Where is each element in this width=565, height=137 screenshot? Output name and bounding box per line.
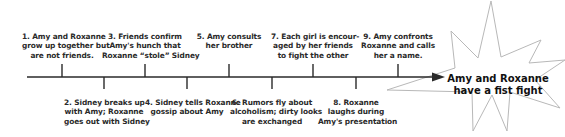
event-4-label: 4. Sidney tells Roxanne gossip about Amy [145, 98, 229, 117]
event-9-line-1: 9. Amy confronts [358, 32, 438, 41]
event-4-line-2: gossip about Amy [145, 107, 229, 116]
starburst-shape [387, 1, 565, 131]
event-8-line-1: 8. Roxanne [318, 98, 394, 107]
event-8-line-3: Amy's presentation [318, 117, 394, 126]
event-8-line-2: laughs during [318, 107, 394, 116]
event-9-label: 9. Amy confronts Roxanne and calls her a… [358, 32, 438, 60]
event-7-line-1: 7. Each girl is encour- [271, 32, 355, 41]
event-5-label: 5. Amy consults her brother [189, 32, 269, 51]
event-1-line-2: grow up together but [22, 41, 102, 50]
event-7-line-3: to fight the other [271, 51, 355, 60]
climax-line-1: Amy and Roxanne [440, 73, 556, 85]
event-9-line-3: her a name. [358, 51, 438, 60]
event-7-line-2: aged by her friends [271, 41, 355, 50]
event-6-line-1: 6. Rumors fly about [230, 98, 314, 107]
event-4-line-1: 4. Sidney tells Roxanne [145, 98, 229, 107]
event-7-label: 7. Each girl is encour- aged by her frie… [271, 32, 355, 60]
event-2-line-2: with Amy; Roxanne [64, 107, 144, 116]
event-3-label: 3. Friends confirm Amy's hunch that Roxa… [102, 32, 188, 60]
event-6-line-3: are exchanged [230, 117, 314, 126]
event-6-line-2: alcoholism; dirty looks [230, 107, 314, 116]
event-1-line-1: 1. Amy and Roxanne [22, 32, 102, 41]
event-3-line-3: Roxanne “stole” Sidney [102, 51, 188, 60]
climax-label: Amy and Roxanne have a fist fight [440, 73, 556, 97]
event-6-label: 6. Rumors fly about alcoholism; dirty lo… [230, 98, 314, 126]
event-2-line-3: goes out with Sidney [64, 117, 144, 126]
event-2-line-1: 2. Sidney breaks up [64, 98, 144, 107]
ticks-below [104, 77, 356, 89]
event-3-line-1: 3. Friends confirm [102, 32, 188, 41]
event-5-line-1: 5. Amy consults [189, 32, 269, 41]
event-2-label: 2. Sidney breaks up with Amy; Roxanne go… [64, 98, 144, 126]
ticks-above [62, 64, 398, 77]
event-1-line-3: are not friends. [22, 51, 102, 60]
event-1-label: 1. Amy and Roxanne grow up together but … [22, 32, 102, 60]
event-5-line-2: her brother [189, 41, 269, 50]
event-3-line-2: Amy's hunch that [102, 41, 188, 50]
climax-line-2: have a fist fight [440, 85, 556, 97]
event-8-label: 8. Roxanne laughs during Amy's presentat… [318, 98, 394, 126]
event-9-line-2: Roxanne and calls [358, 41, 438, 50]
timeline-diagram: 1. Amy and Roxanne grow up together but … [0, 0, 565, 137]
